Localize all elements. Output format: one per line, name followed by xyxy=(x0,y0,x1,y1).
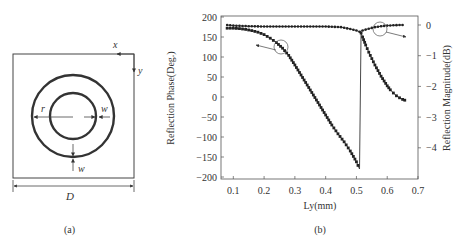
magnitude-marker xyxy=(309,25,312,28)
panel-b-caption: (b) xyxy=(314,224,326,236)
phase-marker xyxy=(332,127,335,130)
magnitude-marker xyxy=(247,25,250,28)
phase-marker xyxy=(315,99,318,102)
magnitude-marker xyxy=(340,26,343,29)
magnitude-marker xyxy=(355,29,358,32)
y2-tick-label: −1 xyxy=(426,50,437,61)
y-tick-label: 100 xyxy=(202,52,217,63)
right-axis-ticks: 0−1−2−3−4 xyxy=(418,20,437,154)
phase-marker xyxy=(292,61,295,64)
phase-marker xyxy=(307,86,310,89)
left-axis-title: Reflection Phase(Deg.) xyxy=(165,51,177,144)
phase-marker xyxy=(226,27,229,30)
phase-marker xyxy=(269,37,272,40)
y-tick-label: 200 xyxy=(202,12,217,23)
phase-marker xyxy=(375,66,378,69)
magnitude-marker xyxy=(324,25,327,28)
phase-marker xyxy=(374,64,377,67)
phase-marker xyxy=(244,28,247,31)
phase-marker xyxy=(241,28,244,31)
magnitude-marker xyxy=(306,25,309,28)
magnitude-marker xyxy=(318,25,321,28)
panel-a-unit-cell-diagram: x y r w w D (a) xyxy=(13,39,143,236)
phase-marker xyxy=(235,27,238,30)
magnitude-annotation-circle xyxy=(373,22,387,36)
magnitude-marker xyxy=(254,25,257,28)
magnitude-marker xyxy=(349,28,352,31)
phase-marker xyxy=(301,76,304,79)
phase-marker xyxy=(364,44,367,47)
magnitude-marker xyxy=(238,25,241,28)
phase-marker xyxy=(253,30,256,33)
y-tick-label: 150 xyxy=(202,32,217,43)
phase-marker xyxy=(378,72,381,75)
y-tick-label: −100 xyxy=(196,132,217,143)
phase-marker xyxy=(389,88,392,91)
y-tick-label: −50 xyxy=(201,112,217,123)
phase-marker xyxy=(303,79,306,82)
x-tick-label: 0.4 xyxy=(319,185,332,196)
phase-marker xyxy=(377,69,380,72)
magnitude-annotation-arrow xyxy=(386,32,406,37)
y-tick-label: 0 xyxy=(212,92,217,103)
magnitude-marker xyxy=(392,24,395,27)
phase-marker xyxy=(272,39,275,42)
phase-marker xyxy=(329,121,332,124)
d-label: D xyxy=(65,190,74,202)
magnitude-marker xyxy=(343,26,346,29)
phase-marker xyxy=(357,164,360,167)
magnitude-marker xyxy=(383,25,386,28)
magnitude-marker xyxy=(315,25,318,28)
magnitude-marker xyxy=(401,24,404,27)
phase-marker xyxy=(326,116,329,119)
figure: x y r w w D (a) 200150100500−50−100−150−… xyxy=(0,0,460,242)
magnitude-marker xyxy=(312,25,315,28)
radius-label: r xyxy=(41,103,45,114)
width-label-bottom: w xyxy=(78,163,85,174)
phase-marker xyxy=(309,89,312,92)
magnitude-marker xyxy=(346,27,349,30)
magnitude-marker xyxy=(377,25,380,28)
y-tick-label: −200 xyxy=(196,172,217,183)
phase-marker xyxy=(238,27,241,30)
phase-marker xyxy=(313,96,316,99)
phase-marker xyxy=(355,160,358,163)
inner-ring xyxy=(50,93,96,139)
magnitude-marker xyxy=(395,24,398,27)
phase-marker xyxy=(263,33,266,36)
phase-marker xyxy=(361,36,364,39)
phase-marker xyxy=(369,54,372,57)
phase-marker xyxy=(266,35,269,38)
magnitude-marker xyxy=(297,25,300,28)
phase-marker xyxy=(257,31,260,34)
magnitude-marker xyxy=(229,24,232,27)
y-tick-label: 50 xyxy=(207,72,217,83)
phase-marker xyxy=(341,138,344,141)
magnitude-marker xyxy=(361,29,364,32)
magnitude-marker xyxy=(266,25,269,28)
magnitude-marker xyxy=(358,30,361,33)
phase-marker xyxy=(250,29,253,32)
magnitude-marker xyxy=(321,25,324,28)
phase-marker xyxy=(321,109,324,112)
magnitude-marker xyxy=(263,25,266,28)
magnitude-marker xyxy=(294,25,297,28)
magnitude-marker xyxy=(241,25,244,28)
magnitude-marker xyxy=(275,25,278,28)
phase-marker xyxy=(289,56,292,59)
magnitude-marker xyxy=(300,25,303,28)
magnitude-marker xyxy=(226,24,229,27)
right-axis-title: Reflection Magnitude(dB) xyxy=(441,45,453,151)
magnitude-marker xyxy=(278,25,281,28)
phase-marker xyxy=(398,96,401,99)
magnitude-marker xyxy=(287,25,290,28)
left-axis-ticks: 200150100500−50−100−150−200 xyxy=(196,12,224,183)
phase-marker xyxy=(317,101,320,104)
width-label-right: w xyxy=(101,103,108,114)
magnitude-marker xyxy=(257,25,260,28)
magnitude-marker xyxy=(380,25,383,28)
phase-marker xyxy=(310,91,313,94)
magnitude-marker xyxy=(367,27,370,30)
panel-a-caption: (a) xyxy=(64,224,75,236)
phase-marker xyxy=(363,41,366,44)
